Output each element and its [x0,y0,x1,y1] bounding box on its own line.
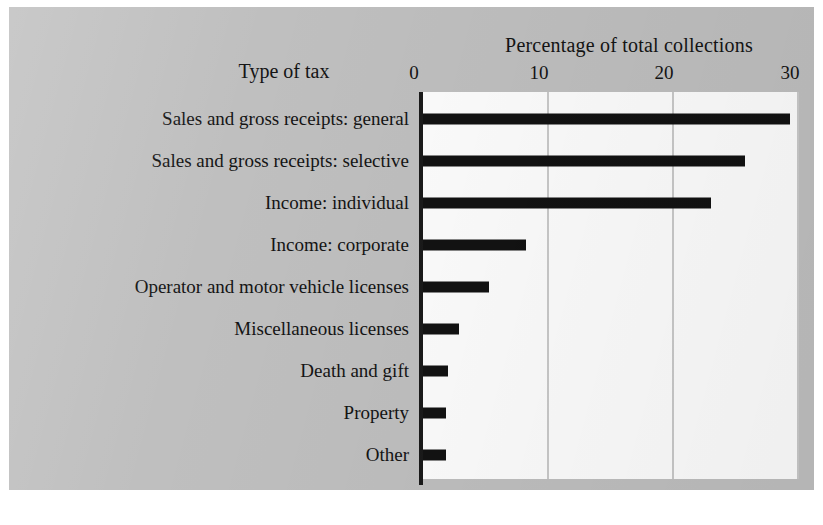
category-label-0: Sales and gross receipts: general [9,108,415,130]
category-label-2: Income: individual [9,192,415,214]
category-label-4: Operator and motor vehicle licenses [9,276,415,298]
tick-label-20: 20 [655,62,674,84]
category-label-6: Death and gift [9,360,415,382]
chart-title: Percentage of total collections [449,34,809,57]
bar-2 [423,198,711,209]
category-label-1: Sales and gross receipts: selective [9,150,415,172]
bar-0 [423,114,790,125]
tick-label-0: 0 [409,62,419,84]
bar-8 [423,450,446,461]
bar-1 [423,156,745,167]
category-label-7: Property [9,402,415,424]
tick-label-10: 10 [530,62,549,84]
bar-6 [423,366,448,377]
category-label-3: Income: corporate [9,234,415,256]
category-axis-title: Type of tax [169,60,399,83]
bar-3 [423,240,526,251]
bar-4 [423,282,489,293]
bar-5 [423,324,459,335]
gridline-20 [672,92,674,479]
category-label-5: Miscellaneous licenses [9,318,415,340]
gridline-30 [797,92,799,479]
gridline-10 [547,92,549,479]
bar-7 [423,408,446,419]
tick-label-30: 30 [781,62,800,84]
figure-panel: Percentage of total collections Type of … [9,7,814,490]
category-label-8: Other [9,444,415,466]
